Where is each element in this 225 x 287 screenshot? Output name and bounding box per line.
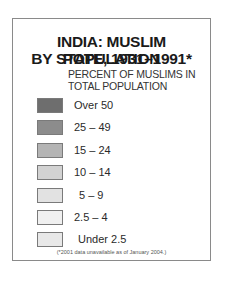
legend-swatch <box>37 143 63 158</box>
legend-swatch <box>37 120 63 135</box>
legend-item: 5 – 9 <box>37 188 197 204</box>
legend-label: 10 – 14 <box>74 165 111 180</box>
legend-item: 2.5 – 4 <box>37 210 197 226</box>
legend-subtitle-line-2: TOTAL POPULATION <box>68 80 167 92</box>
legend-item: Under 2.5 <box>37 232 197 248</box>
legend-label: 2.5 – 4 <box>74 210 108 225</box>
legend-item: 10 – 14 <box>37 165 197 181</box>
legend-label: Over 50 <box>74 98 113 113</box>
legend-item: 15 – 24 <box>37 143 197 159</box>
legend-swatch <box>37 188 63 203</box>
legend-swatch <box>37 165 63 180</box>
legend-item: 25 – 49 <box>37 120 197 136</box>
legend-swatch <box>37 210 63 225</box>
footnote: (*2001 data unavailable as of January 20… <box>13 249 210 255</box>
legend-label: 25 – 49 <box>74 120 111 135</box>
legend-title-line-2: BY STATE, 1931–1991* <box>13 50 210 67</box>
legend-label: 5 – 9 <box>79 188 103 203</box>
legend-frame: INDIA: MUSLIM POPULATION BY STATE, 1931–… <box>12 18 211 261</box>
legend-label: Under 2.5 <box>78 232 126 247</box>
legend-subtitle-line-1: PERCENT OF MUSLIMS IN <box>68 68 195 80</box>
legend-swatch <box>37 98 63 113</box>
legend-label: 15 – 24 <box>74 143 111 158</box>
legend-item: Over 50 <box>37 98 197 114</box>
legend-swatch <box>37 232 63 247</box>
